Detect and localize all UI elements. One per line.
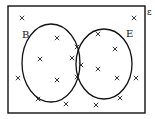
- cross-marker-neither: [20, 16, 24, 20]
- cross-marker-E-only: [96, 32, 100, 36]
- cross-marker-neither: [64, 102, 68, 106]
- venn-diagram: ε B E: [0, 0, 155, 119]
- cross-marker-B-and-E: [70, 56, 74, 60]
- cross-marker-E-only: [115, 76, 119, 80]
- set-e-circle: [76, 29, 132, 99]
- cross-marker-E-only: [113, 47, 117, 51]
- cross-marker-neither: [118, 96, 122, 100]
- cross-marker-neither: [134, 76, 138, 80]
- cross-marker-B-only: [55, 78, 59, 82]
- universal-set-label: ε: [147, 7, 152, 17]
- set-b-circle: [22, 24, 80, 102]
- cross-marker-neither: [16, 76, 20, 80]
- cross-marker-B-only: [55, 36, 59, 40]
- cross-marker-neither: [94, 103, 98, 107]
- cross-marker-neither: [132, 16, 136, 20]
- cross-marker-E-only: [96, 67, 100, 71]
- cross-marker-B-only: [38, 57, 42, 61]
- set-b-label: B: [22, 29, 29, 40]
- set-e-label: E: [126, 28, 133, 39]
